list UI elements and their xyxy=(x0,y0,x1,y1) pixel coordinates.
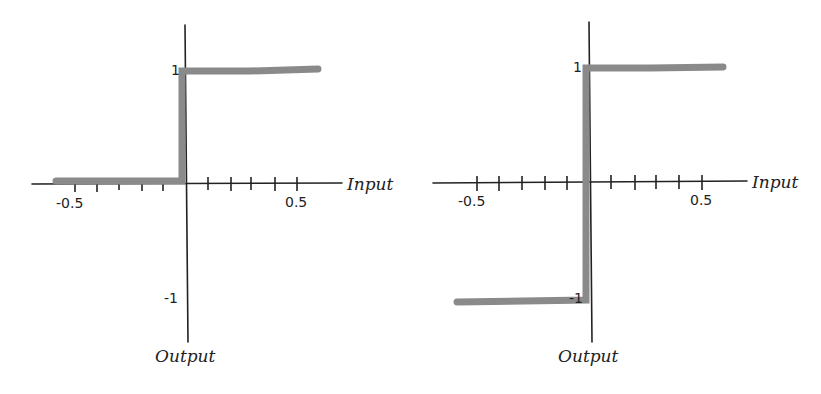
left-y-axis-label: Output xyxy=(155,346,216,366)
figure: -0.5 0.5 1 -1 Input Output -0.5 0.5 1 -1… xyxy=(0,0,821,394)
right-tick-label-neg: -0.5 xyxy=(458,193,485,209)
right-y-label-one: 1 xyxy=(573,59,582,75)
left-chart: -0.5 0.5 1 -1 Input Output xyxy=(32,25,393,366)
right-tick-label-pos: 0.5 xyxy=(690,192,712,208)
left-tick-label-pos: 0.5 xyxy=(285,194,307,210)
right-chart: -0.5 0.5 1 -1 Input Output xyxy=(433,22,798,366)
left-tick-label-neg: -0.5 xyxy=(56,195,83,211)
left-y-label-neg-one: -1 xyxy=(164,290,178,306)
left-y-label-one: 1 xyxy=(171,62,180,78)
right-y-axis-label: Output xyxy=(558,346,619,366)
right-x-axis-label: Input xyxy=(751,172,798,192)
left-x-axis-label: Input xyxy=(346,174,393,194)
right-y-label-neg-one: -1 xyxy=(569,290,583,306)
